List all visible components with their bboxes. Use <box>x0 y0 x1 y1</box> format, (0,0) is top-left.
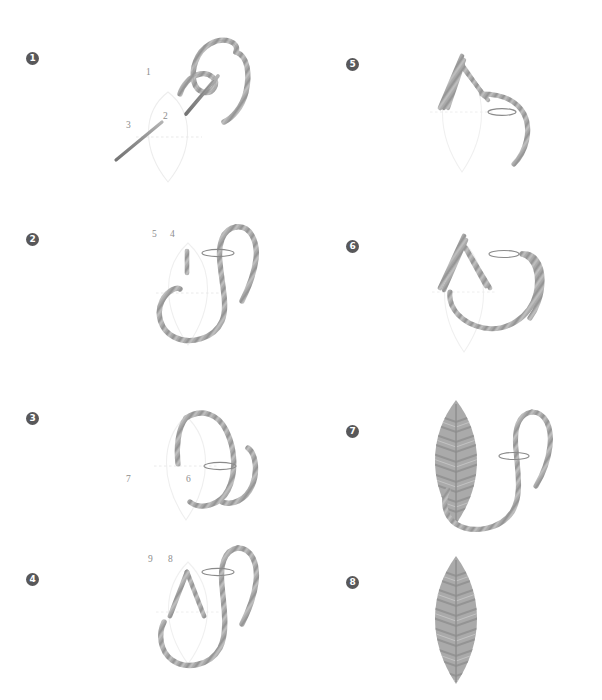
point-label-9: 9 <box>148 554 153 564</box>
step-badge-8: 8 <box>346 576 359 589</box>
point-label-3: 3 <box>126 120 131 130</box>
thread-path <box>482 94 528 164</box>
step-badge-3: 3 <box>26 412 39 425</box>
needle-right <box>468 109 526 116</box>
step-badge-2: 2 <box>26 233 39 246</box>
leaf-guide-outline <box>432 242 496 352</box>
step-2-illustration: 5 4 <box>90 215 300 380</box>
step-4-illustration: 9 8 <box>90 540 300 695</box>
point-label-1: 1 <box>146 67 151 77</box>
step-badge-1: 1 <box>26 52 39 65</box>
point-label-7: 7 <box>126 474 131 484</box>
filled-leaf <box>422 400 490 524</box>
point-label-4: 4 <box>170 229 175 239</box>
step-6-illustration <box>400 222 600 382</box>
point-label-6: 6 <box>186 474 191 484</box>
diagram-sheet: 1 <box>0 0 602 700</box>
needle-lower <box>116 122 162 160</box>
step-3-illustration: 7 6 <box>90 392 300 552</box>
thread-path <box>177 413 255 506</box>
thread-path <box>450 254 542 329</box>
leaf-guide-outline <box>430 62 494 172</box>
step-badge-7: 7 <box>346 425 359 438</box>
step-5-illustration <box>400 40 600 205</box>
step-1-illustration: 1 2 3 <box>90 30 290 205</box>
point-label-8: 8 <box>168 554 173 564</box>
step-badge-5: 5 <box>346 58 359 71</box>
stitch-stack <box>440 236 490 290</box>
step-8-illustration <box>400 550 580 695</box>
step-7-illustration <box>400 392 600 557</box>
completed-leaf <box>422 556 490 686</box>
point-label-5: 5 <box>152 229 157 239</box>
step-badge-6: 6 <box>346 240 359 253</box>
point-label-2: 2 <box>163 111 168 121</box>
step-badge-4: 4 <box>26 573 39 586</box>
